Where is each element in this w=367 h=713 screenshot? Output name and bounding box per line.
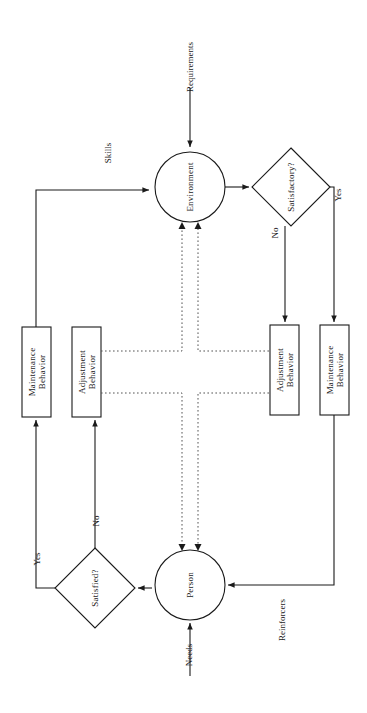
- edge-label-skills: Skills: [103, 135, 113, 171]
- edge-right-adjustment-to-person: [198, 393, 269, 545]
- dot-arrowhead-env-left: [179, 222, 186, 229]
- edge-satisfactory-yes: [330, 187, 334, 322]
- node-environment-label: Environment: [160, 157, 220, 217]
- edge-label-reinforcers: Reinforcers: [277, 587, 287, 653]
- dot-arrowhead-env-right: [195, 222, 202, 229]
- node-satisfied-label: Satisfied?: [65, 558, 125, 618]
- edge-label-satisfied-no: No: [91, 511, 101, 531]
- diagram-canvas: Environment Person Satisfactory? Satisfi…: [0, 0, 367, 713]
- node-satisfactory-label: Satisfactory?: [261, 157, 321, 217]
- edge-label-satisfactory-no: No: [270, 223, 280, 243]
- edge-label-satisfactory-yes: Yes: [333, 184, 343, 206]
- edge-reinforcers: [228, 415, 334, 585]
- node-right-maintenance-label: Maintenance Behavior: [305, 339, 365, 401]
- edge-skills: [36, 190, 149, 327]
- edge-label-needs: Needs: [184, 633, 194, 677]
- node-person-label: Person: [160, 555, 220, 615]
- edge-left-adjustment-to-person: [101, 393, 182, 545]
- edge-label-satisfied-yes: Yes: [32, 548, 42, 570]
- edge-left-adjustment-to-environment: [101, 228, 182, 351]
- edge-right-adjustment-to-environment: [198, 228, 269, 351]
- edge-label-requirements: Requirements: [185, 32, 195, 102]
- node-left-adjustment-label: Adjustment Behavior: [57, 341, 117, 403]
